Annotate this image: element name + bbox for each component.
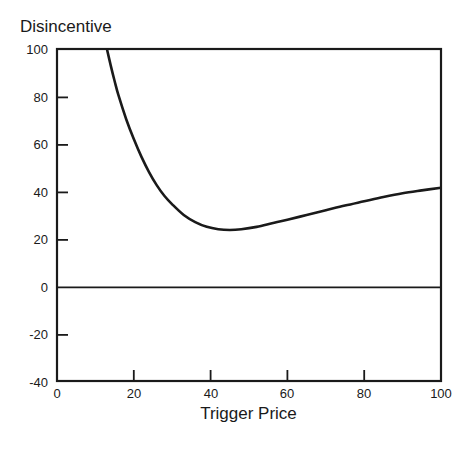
chart-figure: Disincentive 100 80 60 40 20 0 -20 -40 (0, 0, 471, 450)
y-axis-label-0: 0 (4, 281, 48, 294)
y-axis-label-80: 80 (4, 91, 48, 104)
x-axis-label-100: 100 (418, 387, 464, 400)
x-axis-label-0: 0 (34, 387, 80, 400)
x-axis-label-20: 20 (111, 387, 157, 400)
y-axis-label-60: 60 (4, 138, 48, 151)
chart-plot-area (0, 0, 471, 450)
y-axis-label-20: 20 (4, 233, 48, 246)
plot-frame (57, 49, 441, 381)
x-axis-label-60: 60 (264, 387, 310, 400)
x-axis-label-80: 80 (341, 387, 387, 400)
x-axis-title-text: Trigger Price (200, 404, 297, 424)
x-axis-label-40: 40 (188, 387, 234, 400)
x-axis-title: Trigger Price (0, 404, 471, 424)
y-axis-label-40: 40 (4, 186, 48, 199)
y-axis-label-neg20: -20 (4, 328, 48, 341)
y-axis-label-100: 100 (4, 43, 48, 56)
